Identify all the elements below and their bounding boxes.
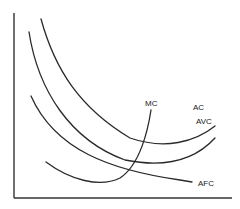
avc-curve bbox=[29, 32, 215, 163]
afc-curve bbox=[31, 96, 192, 182]
cost-curves-chart: MC AC AVC AFC bbox=[0, 0, 240, 209]
afc-label: AFC bbox=[198, 179, 214, 188]
mc-label: MC bbox=[145, 99, 158, 108]
avc-label: AVC bbox=[196, 117, 212, 126]
ac-label: AC bbox=[193, 103, 204, 112]
ac-curve bbox=[41, 19, 215, 144]
